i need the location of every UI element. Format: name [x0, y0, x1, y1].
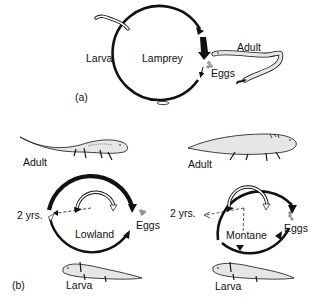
lowland-duration-label: 2 yrs. — [17, 209, 43, 221]
lamprey-title: Lamprey — [142, 52, 183, 64]
lamprey-cycle — [96, 6, 281, 105]
arrow-head-icon — [275, 231, 282, 240]
arrow-icon — [201, 67, 203, 75]
montane-larva-icon — [213, 262, 294, 282]
lowland-eggs-label: Eggs — [136, 219, 160, 231]
montane-duration-label: 2 yrs. — [170, 207, 196, 219]
arrow-head-icon — [288, 205, 297, 214]
inner-curved-arrow-icon — [229, 187, 267, 207]
lamprey-adult-label: Adult — [237, 41, 261, 53]
thick-arrow-icon — [198, 37, 211, 60]
lowland-adult-label: Adult — [23, 156, 47, 168]
inner-curved-arrow-icon — [77, 192, 114, 208]
lowland-larva-label: Larva — [66, 279, 92, 291]
life-cycle-diagram — [0, 0, 319, 308]
lowland-title: Lowland — [75, 228, 114, 240]
panel-b-marker: (b) — [12, 279, 25, 291]
eggs-icon — [140, 210, 146, 215]
montane-title: Montane — [226, 229, 267, 241]
montane-larva-label: Larva — [215, 280, 241, 292]
lamprey-egg-icon — [157, 101, 169, 104]
lamprey-eggs-label: Eggs — [211, 67, 235, 79]
montane-adult-salamander-icon — [188, 134, 296, 161]
arrow-head-icon — [128, 204, 137, 213]
montane-eggs-label: Eggs — [284, 222, 308, 234]
montane-cycle — [188, 134, 297, 282]
lamprey-larva-icon — [96, 16, 128, 29]
montane-adult-label: Adult — [188, 158, 212, 170]
panel-a-marker: (a) — [75, 91, 88, 103]
lamprey-larva-label: Larva — [86, 52, 112, 64]
